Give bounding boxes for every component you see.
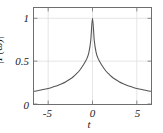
y-axis-label: |F(ω)|: [0, 36, 4, 64]
x-tick-label: -5: [43, 107, 52, 119]
plot-frame: [33, 7, 152, 105]
x-tick-label: 0: [90, 107, 96, 119]
y-tick-label: 0.5: [0, 55, 29, 67]
figure-container: 00.51 -505 |F(ω)| t: [0, 0, 163, 133]
tick-marks: [34, 8, 151, 104]
x-tick-label: 5: [135, 107, 141, 119]
y-tick-label: 0: [0, 99, 29, 111]
y-tick-label: 1: [0, 12, 29, 24]
x-axis-label: t: [87, 118, 90, 130]
